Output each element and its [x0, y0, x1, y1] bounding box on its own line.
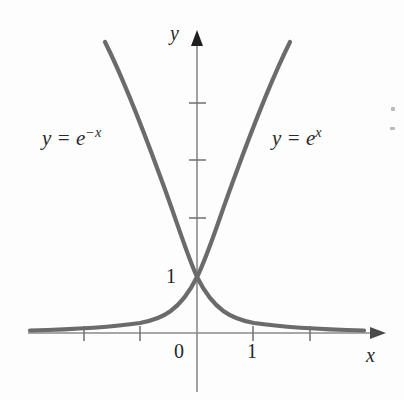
- scan-speck-upper-icon: [391, 107, 395, 111]
- curve-label-exp-x: y = ex: [272, 124, 322, 151]
- curve-exp-neg-x: [105, 42, 364, 331]
- curve-label-exp-neg-x-base: y = e: [42, 126, 85, 150]
- x-tick-label-1: 1: [247, 340, 257, 363]
- y-tick-label-1: 1: [166, 265, 176, 288]
- curve-label-exp-x-base: y = e: [272, 126, 315, 150]
- curve-label-exp-neg-x-exponent: −x: [85, 124, 101, 140]
- scan-speck-lower-icon: [390, 127, 395, 130]
- x-axis-label: x: [366, 344, 375, 367]
- plot-canvas: [0, 0, 404, 400]
- exponential-functions-figure: y x y = e−x y = ex 1 0 1: [0, 0, 404, 400]
- origin-label-0: 0: [174, 340, 184, 363]
- y-axis: [191, 30, 203, 392]
- curve-label-exp-x-exponent: x: [315, 124, 321, 140]
- curve-label-exp-neg-x: y = e−x: [42, 124, 101, 151]
- curve-exp-x: [30, 42, 290, 331]
- y-axis-label: y: [170, 22, 179, 45]
